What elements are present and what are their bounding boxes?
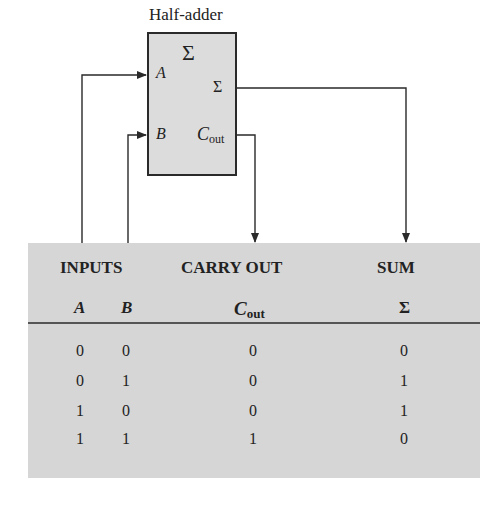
- pin-label-cout: Cout: [197, 124, 224, 147]
- cell-b: 1: [116, 430, 136, 448]
- header-divider: [28, 322, 480, 324]
- cell-sum: 0: [394, 342, 414, 360]
- header-carry-out: CARRY OUT: [181, 258, 282, 278]
- block-symbol-sigma: Σ: [182, 40, 195, 66]
- cell-cout: 0: [243, 372, 263, 390]
- cell-sum: 1: [394, 402, 414, 420]
- wire-input-b: [128, 135, 146, 243]
- cell-b: 0: [116, 342, 136, 360]
- pin-label-b: B: [156, 125, 166, 143]
- cell-cout: 0: [243, 402, 263, 420]
- cell-a: 0: [70, 372, 90, 390]
- cell-a: 1: [70, 430, 90, 448]
- pin-label-a: A: [156, 64, 166, 82]
- column-cout: Cout: [234, 298, 265, 322]
- column-b: B: [121, 298, 132, 318]
- pin-label-cout-main: C: [197, 124, 209, 144]
- cell-a: 0: [70, 342, 90, 360]
- header-inputs: INPUTS: [60, 258, 122, 278]
- wire-output-sum: [236, 88, 406, 242]
- column-sum: Σ: [399, 298, 410, 318]
- wire-output-cout: [236, 135, 255, 242]
- cell-a: 1: [70, 402, 90, 420]
- column-cout-sub: out: [247, 306, 265, 321]
- diagram-title: Half-adder: [149, 5, 223, 25]
- cell-cout: 0: [243, 342, 263, 360]
- cell-b: 1: [116, 372, 136, 390]
- pin-label-cout-sub: out: [209, 132, 224, 146]
- wire-input-a: [82, 75, 146, 243]
- column-cout-main: C: [234, 298, 247, 319]
- cell-b: 0: [116, 402, 136, 420]
- cell-cout: 1: [243, 430, 263, 448]
- cell-sum: 0: [394, 430, 414, 448]
- pin-label-sum: Σ: [213, 78, 222, 96]
- header-sum: SUM: [377, 258, 415, 278]
- cell-sum: 1: [394, 372, 414, 390]
- column-a: A: [74, 298, 85, 318]
